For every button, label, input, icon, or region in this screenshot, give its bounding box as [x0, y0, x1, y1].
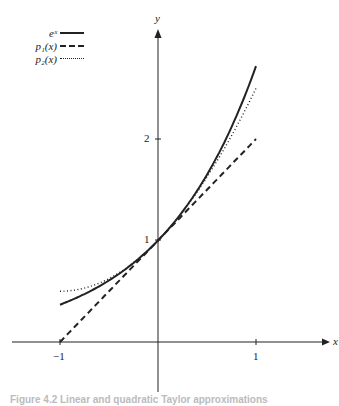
- legend-label: eˣ: [49, 27, 57, 39]
- y-tick-label-2: 2: [144, 132, 150, 144]
- y-tick-label-1: 1: [144, 233, 150, 245]
- legend-item-ex: eˣ: [20, 26, 84, 39]
- dashed-line-swatch-icon: [60, 45, 84, 47]
- solid-line-swatch-icon: [60, 32, 84, 34]
- legend-item-p1: p₁(x): [20, 39, 84, 52]
- legend-item-p2: p₂(x): [20, 52, 84, 65]
- x-axis-label: x: [333, 335, 338, 347]
- x-tick-label-neg1: −1: [53, 350, 65, 362]
- dotted-line-swatch-icon: [60, 58, 84, 59]
- x-tick-label-1: 1: [253, 350, 259, 362]
- y-axis-arrow-icon: [155, 29, 162, 38]
- legend-label: p₁(x): [35, 40, 57, 52]
- legend-label: p₂(x): [35, 53, 57, 65]
- y-axis-label: y: [155, 12, 160, 24]
- x-axis-arrow-icon: [322, 339, 330, 346]
- legend: eˣ p₁(x) p₂(x): [20, 26, 84, 65]
- figure-caption: Figure 4.2 Linear and quadratic Taylor a…: [10, 394, 339, 405]
